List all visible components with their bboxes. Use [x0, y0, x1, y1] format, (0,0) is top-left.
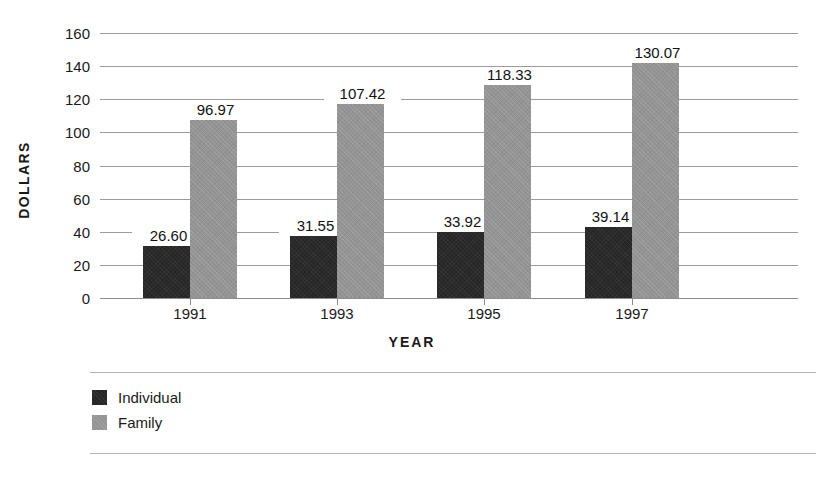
y-axis-tick-label: 100 [42, 125, 90, 140]
legend-item-family[interactable]: Family [92, 410, 392, 435]
bar-value-label-family-1995: 118.33 [471, 67, 548, 82]
x-axis-tick [484, 298, 485, 305]
y-axis-tick-label: 40 [42, 225, 90, 240]
bar-chart: DOLLARS 16014012010080604020026.6096.971… [0, 0, 824, 480]
dark-square-swatch [92, 390, 107, 405]
bar-value-label-family-1997: 130.07 [619, 45, 696, 60]
bar-individual-1993 [290, 236, 337, 298]
bar-individual-1997 [585, 227, 632, 298]
legend-label: Family [118, 415, 162, 430]
bar-individual-1991 [143, 246, 190, 298]
gridline [100, 298, 798, 299]
bar-individual-1995 [437, 232, 484, 298]
chart-legend: IndividualFamily [92, 385, 392, 435]
x-axis-tick-label-1997: 1997 [592, 306, 672, 321]
x-axis-tick-label-1995: 1995 [444, 306, 524, 321]
x-axis-title: YEAR [0, 334, 824, 350]
bar-family-1995 [484, 85, 531, 298]
bar-value-label-family-1991: 96.97 [177, 102, 254, 117]
legend-divider-bottom [90, 453, 816, 454]
y-axis-tick-label: 80 [42, 159, 90, 174]
legend-divider-top [90, 372, 816, 373]
bar-family-1997 [632, 63, 679, 298]
gridline [100, 33, 798, 34]
x-axis-tick [632, 298, 633, 305]
x-axis-tick [337, 298, 338, 305]
y-axis-title: DOLLARS [16, 120, 32, 240]
x-axis-tick [190, 298, 191, 305]
y-axis-tick-label: 140 [42, 59, 90, 74]
y-axis-tick-label: 60 [42, 192, 90, 207]
bar-family-1991 [190, 120, 237, 298]
legend-item-individual[interactable]: Individual [92, 385, 392, 410]
bar-family-1993 [337, 104, 384, 298]
legend-label: Individual [118, 390, 181, 405]
plot-area: 16014012010080604020026.6096.97199131.55… [100, 33, 798, 298]
gridline [100, 66, 798, 67]
y-axis-tick-label: 0 [42, 291, 90, 306]
x-axis-tick-label-1993: 1993 [297, 306, 377, 321]
y-axis-tick-label: 120 [42, 92, 90, 107]
y-axis-tick-label: 160 [42, 26, 90, 41]
x-axis-tick-label-1991: 1991 [150, 306, 230, 321]
y-axis-tick-label: 20 [42, 258, 90, 273]
gray-square-swatch [92, 415, 107, 430]
bar-value-label-family-1993: 107.42 [324, 86, 401, 101]
